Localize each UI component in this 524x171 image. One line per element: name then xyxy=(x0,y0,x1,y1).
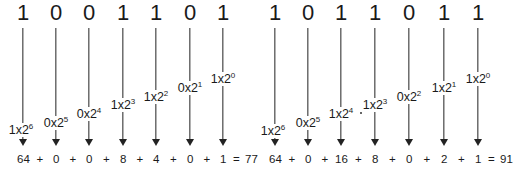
exponent: 6 xyxy=(29,122,33,131)
sum-term: 2 xyxy=(441,153,447,165)
sum-term: 8 xyxy=(120,153,126,165)
power-term-label: 1x24 xyxy=(328,107,355,121)
arrow-down-icon xyxy=(19,139,27,146)
exponent: 3 xyxy=(383,97,387,106)
coefficient: 1 xyxy=(211,72,218,86)
binary-digit: 0 xyxy=(184,2,196,24)
arrow-shaft xyxy=(189,95,190,140)
sum-term: 0 xyxy=(406,153,412,165)
arrow-down-icon xyxy=(405,139,413,146)
power-term-label: 0x21 xyxy=(177,81,204,95)
binary-digit: 1 xyxy=(269,2,281,24)
sum-term: 0 xyxy=(305,153,311,165)
connector-line xyxy=(222,28,223,72)
connector-line xyxy=(477,28,478,72)
connector-line xyxy=(374,28,375,98)
power-term-label: 0x24 xyxy=(76,107,103,121)
binary-digit: 1 xyxy=(369,2,381,24)
plus-sign: + xyxy=(137,153,144,165)
sum-term: 64 xyxy=(17,153,30,165)
connector-line xyxy=(122,28,123,98)
power-term-label: 1x21 xyxy=(431,81,458,95)
sum-term: 1 xyxy=(475,153,481,165)
plus-sign: + xyxy=(103,153,110,165)
arrow-shaft xyxy=(374,112,375,140)
stray-dot xyxy=(360,112,362,114)
plus-sign: + xyxy=(322,153,329,165)
connector-line xyxy=(155,28,156,90)
arrow-down-icon xyxy=(152,139,160,146)
arrow-down-icon xyxy=(219,139,227,146)
arrow-down-icon xyxy=(85,139,93,146)
binary-digit: 0 xyxy=(50,2,62,24)
arrow-down-icon xyxy=(119,139,127,146)
arrow-down-icon xyxy=(271,139,279,146)
sum-term: 0 xyxy=(86,153,92,165)
plus-sign: + xyxy=(289,153,296,165)
connector-line xyxy=(408,28,409,90)
binary-digit: 0 xyxy=(403,2,415,24)
coefficient: 0 xyxy=(77,107,84,121)
power-term-label: 1x23 xyxy=(110,98,137,112)
arrow-down-icon xyxy=(474,139,482,146)
exponent: 2 xyxy=(164,89,168,98)
arrow-down-icon xyxy=(304,139,312,146)
exponent: 3 xyxy=(131,97,135,106)
result-value: 77 xyxy=(245,153,258,165)
binary-digit: 1 xyxy=(150,2,162,24)
connector-line xyxy=(307,28,308,116)
binary-digit: 1 xyxy=(217,2,229,24)
arrow-shaft xyxy=(222,86,223,140)
power-term-label: 1x20 xyxy=(210,72,237,86)
binary-digit: 1 xyxy=(472,2,484,24)
power-term-label: 1x26 xyxy=(260,124,287,138)
arrow-down-icon xyxy=(337,139,345,146)
sum-term: 64 xyxy=(269,153,282,165)
power-term-label: 0x22 xyxy=(396,90,423,104)
connector-line xyxy=(340,28,341,107)
power-term-label: 1x26 xyxy=(8,123,35,137)
arrow-shaft xyxy=(155,104,156,140)
coefficient: 0 xyxy=(178,81,185,95)
plus-sign: + xyxy=(389,153,396,165)
arrow-shaft xyxy=(477,86,478,140)
power-term-label: 1x20 xyxy=(465,72,492,86)
exponent: 4 xyxy=(97,106,101,115)
arrow-shaft xyxy=(443,95,444,140)
sum-term: 1 xyxy=(220,153,226,165)
plus-sign: + xyxy=(70,153,77,165)
plus-sign: + xyxy=(204,153,211,165)
plus-sign: + xyxy=(355,153,362,165)
plus-sign: + xyxy=(37,153,44,165)
coefficient: 1 xyxy=(363,98,370,112)
arrow-shaft xyxy=(408,104,409,140)
binary-digit: 0 xyxy=(83,2,95,24)
exponent: 2 xyxy=(417,89,421,98)
exponent: 4 xyxy=(349,106,353,115)
binary-digit: 1 xyxy=(17,2,29,24)
arrow-down-icon xyxy=(371,139,379,146)
plus-sign: + xyxy=(458,153,465,165)
coefficient: 1 xyxy=(432,81,439,95)
connector-line xyxy=(88,28,89,107)
sum-term: 16 xyxy=(335,153,348,165)
sum-term: 0 xyxy=(187,153,193,165)
equals-sign: = xyxy=(488,153,495,165)
power-term-label: 0x25 xyxy=(295,116,322,130)
coefficient: 0 xyxy=(296,116,303,130)
coefficient: 1 xyxy=(9,123,16,137)
exponent: 5 xyxy=(64,115,68,124)
exponent: 1 xyxy=(452,80,456,89)
binary-digit: 1 xyxy=(117,2,129,24)
coefficient: 1 xyxy=(329,107,336,121)
plus-sign: + xyxy=(424,153,431,165)
connector-line xyxy=(189,28,190,81)
coefficient: 0 xyxy=(397,90,404,104)
connector-line xyxy=(274,28,275,124)
coefficient: 0 xyxy=(44,116,51,130)
arrow-down-icon xyxy=(52,139,60,146)
binary-digit: 0 xyxy=(302,2,314,24)
equals-sign: = xyxy=(233,153,240,165)
exponent: 1 xyxy=(198,80,202,89)
exponent: 0 xyxy=(486,71,490,80)
